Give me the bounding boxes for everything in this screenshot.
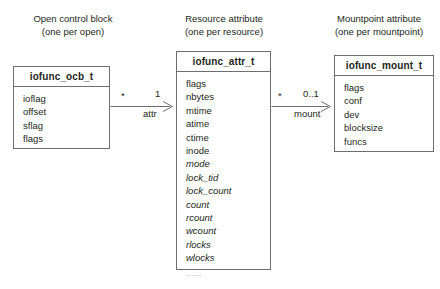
caption-line-2: (one per open): [8, 25, 138, 38]
caption-mountpoint-attribute: Mountpoint attribute (one per mountpoint…: [318, 12, 440, 38]
class-field-list: flags nbytes mtime atime ctime inode mod…: [177, 72, 270, 285]
class-field: atime: [186, 117, 270, 130]
caption-line-2: (one per resource): [158, 25, 290, 38]
caption-open-control-block: Open control block (one per open): [8, 12, 138, 38]
class-box-iofunc-ocb-t: iofunc_ocb_t ioflag offset sflag flags: [13, 66, 110, 149]
class-field: lock_count: [186, 184, 270, 197]
class-field: flags: [344, 81, 433, 94]
class-field: mtime: [186, 104, 270, 117]
class-field: funcs: [344, 135, 433, 148]
class-field: offset: [23, 105, 109, 118]
class-title: iofunc_mount_t: [335, 56, 433, 76]
class-box-iofunc-attr-t: iofunc_attr_t flags nbytes mtime atime c…: [176, 51, 271, 270]
multiplicity-attr-target: 1: [155, 88, 160, 99]
class-field: rlocks: [186, 238, 270, 251]
class-field: blocksize: [344, 121, 433, 134]
caption-line-2: (one per mountpoint): [318, 25, 440, 38]
class-title: iofunc_attr_t: [177, 52, 270, 72]
association-role-mount: mount: [294, 108, 320, 119]
class-field-ellipsis: ……: [186, 265, 270, 280]
class-field: sflag: [23, 119, 109, 132]
class-field: mode: [186, 157, 270, 170]
class-field: ioflag: [23, 92, 109, 105]
class-field: conf: [344, 94, 433, 107]
class-field: wlocks: [186, 251, 270, 264]
caption-resource-attribute: Resource attribute (one per resource): [158, 12, 290, 38]
class-field: lock_tid: [186, 171, 270, 184]
class-field: flags: [186, 77, 270, 90]
caption-line-1: Resource attribute: [158, 12, 290, 25]
class-box-iofunc-mount-t: iofunc_mount_t flags conf dev blocksize …: [334, 55, 434, 152]
class-field: inode: [186, 144, 270, 157]
multiplicity-attr-source: *: [278, 90, 282, 101]
class-field-list: flags conf dev blocksize funcs: [335, 76, 433, 153]
multiplicity-mount-target: 0..1: [303, 88, 319, 99]
caption-line-1: Mountpoint attribute: [318, 12, 440, 25]
class-field-list: ioflag offset sflag flags: [14, 87, 109, 151]
arrowhead-ocb-attr: [163, 102, 173, 112]
class-title: iofunc_ocb_t: [14, 67, 109, 87]
class-field: nbytes: [186, 90, 270, 103]
class-field: wcount: [186, 224, 270, 237]
class-field: flags: [23, 132, 109, 145]
diagram-canvas: Open control block (one per open) Resour…: [0, 0, 440, 289]
class-field: count: [186, 198, 270, 211]
arrowhead-attr-mount: [321, 102, 331, 112]
association-role-attr: attr: [143, 108, 157, 119]
class-field: ctime: [186, 131, 270, 144]
caption-line-1: Open control block: [8, 12, 138, 25]
class-field: dev: [344, 108, 433, 121]
multiplicity-ocb-source: *: [121, 90, 125, 101]
class-field: rcount: [186, 211, 270, 224]
